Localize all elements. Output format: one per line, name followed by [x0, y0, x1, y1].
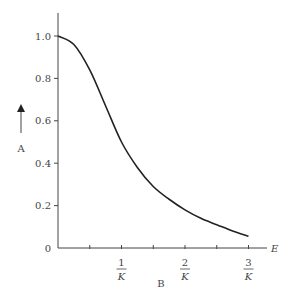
x-tick-numerator: 1 — [118, 257, 124, 268]
x-tick-numerator: 2 — [182, 257, 188, 268]
y-tick-label: 0.2 — [35, 200, 51, 211]
x-tick-denominator: K — [180, 271, 189, 282]
chart: 00.20.40.60.81.0 1K2K3K E B A — [0, 0, 290, 305]
x-axis-end-label: E — [270, 243, 279, 254]
x-ticks: 1K2K3K — [90, 245, 254, 282]
y-tick-label: 0.4 — [35, 158, 51, 169]
up-arrow-icon — [17, 104, 25, 133]
y-tick-label: 0.6 — [35, 115, 51, 126]
x-tick-denominator: K — [244, 271, 253, 282]
x-axis-label: B — [157, 278, 164, 289]
y-tick-label: 0.8 — [35, 73, 51, 84]
y-axis-label: A — [16, 143, 25, 154]
y-tick-label: 1.0 — [35, 31, 51, 42]
y-tick-label: 0 — [45, 243, 51, 254]
data-curve — [58, 36, 249, 236]
y-ticks: 00.20.40.60.81.0 — [35, 31, 58, 254]
x-tick-numerator: 3 — [245, 257, 251, 268]
x-tick-denominator: K — [117, 271, 126, 282]
